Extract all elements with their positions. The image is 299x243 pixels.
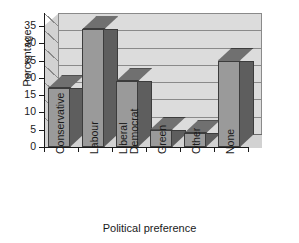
x-axis-category-label: Other	[191, 128, 202, 154]
y-axis-tick-label: 15	[24, 89, 36, 100]
x-axis-tick	[112, 147, 113, 152]
plot-area: 05101520253035 ConservativeLabourLiberal…	[0, 0, 299, 243]
bar-side-face	[240, 61, 254, 147]
x-axis-category-label-line: Labour	[88, 121, 100, 154]
x-axis-tick	[180, 147, 181, 152]
x-axis-category-label: None	[225, 129, 236, 154]
y-axis-line	[44, 13, 45, 148]
x-axis-category-label: Labour	[89, 121, 100, 154]
x-axis-category-label: LiberalDemocrat	[118, 108, 140, 154]
gridline-connector	[44, 48, 58, 61]
gridline-connector	[44, 30, 58, 43]
bar-chart: Percentage 05101520253035 ConservativeLa…	[0, 0, 299, 243]
y-axis-tick-label: 30	[24, 37, 36, 48]
x-axis-category-label-line: None	[224, 129, 236, 154]
x-axis-tick	[78, 147, 79, 152]
x-axis-category-label-line: Other	[190, 128, 202, 154]
x-axis-tick	[214, 147, 215, 152]
x-axis-tick	[248, 147, 249, 152]
y-axis-tick-label: 20	[24, 72, 36, 83]
y-axis-tick-label: 5	[30, 124, 36, 135]
x-axis-title: Political preference	[0, 222, 299, 234]
y-axis-tick-label: 35	[24, 20, 36, 31]
x-axis-category-label-line: Conservative	[54, 93, 66, 154]
y-axis-tick-label: 25	[24, 55, 36, 66]
x-axis-tick	[44, 147, 45, 152]
gridline-connector	[44, 13, 58, 26]
y-axis-tick-label: 10	[24, 106, 36, 117]
x-axis-category-label-line: Green	[156, 125, 168, 154]
gridline	[58, 13, 262, 14]
y-axis-tick-label: 0	[30, 141, 36, 152]
x-axis-category-label: Conservative	[55, 93, 66, 154]
x-axis-category-label: Green	[157, 125, 168, 154]
x-axis-tick	[146, 147, 147, 152]
x-axis-category-label-line: Democrat	[129, 108, 140, 154]
